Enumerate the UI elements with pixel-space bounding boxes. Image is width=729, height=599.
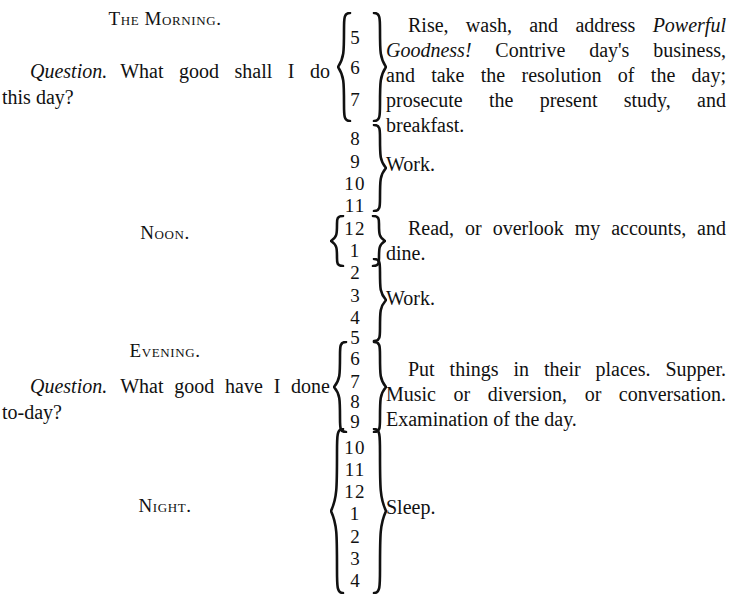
question-block-evening: Question.What good have I done to-day?: [0, 373, 330, 425]
period-heading-night: Night.: [0, 495, 330, 517]
entry-line-text: Examination of the day.: [386, 408, 577, 430]
entry-line-text: Work.: [386, 152, 726, 177]
entry-line: Examination of the day.: [386, 407, 726, 432]
hour-mark: 4: [332, 308, 378, 327]
hour-mark: 5: [332, 28, 378, 47]
hour-mark: 7: [332, 372, 378, 391]
document-page: The Morning. Question.What good shall I …: [0, 0, 729, 599]
hour-mark: 10: [332, 174, 378, 193]
hour-mark: 8: [332, 392, 378, 411]
hour-mark: 6: [332, 58, 378, 77]
entry-line-text: breakfast.: [386, 114, 464, 136]
question-label-morning: Question.: [30, 60, 107, 82]
hour-mark: 1: [332, 241, 378, 260]
entry-noon-paragraph: Read, or overlook my accounts, and dine.: [386, 216, 726, 266]
hour-mark: 11: [332, 196, 378, 215]
entry-line: and take the resolution of the day;: [386, 63, 726, 88]
entry-line: Read, or overlook my accounts, and: [386, 216, 726, 241]
entry-line-text: Goodness! Contrive day's business,: [386, 39, 726, 61]
entry-line: breakfast.: [386, 113, 726, 138]
period-heading-evening: Evening.: [0, 340, 330, 362]
entry-afternoon-work: Work.: [386, 286, 726, 311]
entry-morning: Rise, wash, and address Powerful Goodnes…: [386, 13, 726, 138]
hour-mark: 1: [332, 504, 378, 523]
entry-evening-paragraph: Put things in their places. Supper. Musi…: [386, 357, 726, 432]
entry-line-text: prosecute the present study, and: [386, 89, 726, 111]
entry-line-text: and take the resolution of the day;: [386, 64, 726, 86]
entry-evening: Put things in their places. Supper. Musi…: [386, 357, 726, 432]
entry-line: Put things in their places. Supper.: [386, 357, 726, 382]
entry-line-text: Read, or overlook my accounts, and: [408, 217, 726, 239]
entry-morning-paragraph: Rise, wash, and address Powerful Goodnes…: [386, 13, 726, 138]
question-label-evening: Question.: [30, 375, 107, 397]
entry-line: dine.: [386, 241, 726, 266]
hour-mark: 12: [332, 219, 378, 238]
hour-mark: 2: [332, 263, 378, 282]
entry-line: Goodness! Contrive day's business,: [386, 38, 726, 63]
entry-morning-work: Work.: [386, 152, 726, 177]
hour-mark: 4: [332, 571, 378, 590]
entry-line-text: Sleep.: [386, 495, 726, 520]
question-text-evening: What good have I done: [120, 375, 330, 397]
hour-mark: 9: [332, 152, 378, 171]
hour-mark: 5: [332, 328, 378, 347]
hour-mark: 3: [332, 549, 378, 568]
hour-mark: 9: [332, 412, 378, 431]
entry-line-text: Put things in their places. Supper.: [408, 358, 726, 380]
right-column: Rise, wash, and address Powerful Goodnes…: [386, 0, 729, 599]
hour-mark: 8: [332, 129, 378, 148]
question-line-evening-2: to-day?: [0, 399, 330, 425]
hour-mark: 7: [332, 90, 378, 109]
entry-line-text: Work.: [386, 286, 726, 311]
hour-mark: 3: [332, 286, 378, 305]
period-heading-morning: The Morning.: [0, 8, 330, 30]
hour-mark: 12: [332, 482, 378, 501]
entry-line: Rise, wash, and address Powerful: [386, 13, 726, 38]
period-heading-noon: Noon.: [0, 222, 330, 244]
entry-line-text: Music or diversion, or conversation.: [386, 383, 726, 405]
left-column: The Morning. Question.What good shall I …: [0, 0, 330, 599]
question-line-morning-1: Question.What good shall I do: [0, 58, 330, 84]
question-line-morning-2: this day?: [0, 84, 330, 110]
question-text-morning: What good shall I do: [120, 60, 330, 82]
entry-noon: Read, or overlook my accounts, and dine.: [386, 216, 726, 266]
hour-mark: 6: [332, 349, 378, 368]
entry-line: prosecute the present study, and: [386, 88, 726, 113]
entry-line-text: Rise, wash, and address Powerful: [408, 14, 726, 36]
question-line-evening-1: Question.What good have I done: [0, 373, 330, 399]
question-block-morning: Question.What good shall I do this day?: [0, 58, 330, 110]
entry-line: Music or diversion, or conversation.: [386, 382, 726, 407]
entry-line-text: dine.: [386, 242, 425, 264]
hour-mark: 10: [332, 438, 378, 457]
hour-mark: 11: [332, 460, 378, 479]
entry-night: Sleep.: [386, 495, 726, 520]
hour-mark: 2: [332, 527, 378, 546]
hour-column: 5 6 7 8 9 10 11 12 1 2 3 4 5 6 7 8 9 10 …: [330, 0, 386, 599]
